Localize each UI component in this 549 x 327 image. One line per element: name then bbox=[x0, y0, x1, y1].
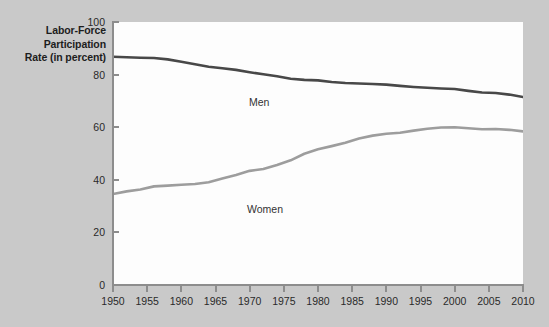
y-axis-title: Labor-Force Participation Rate (in perce… bbox=[4, 24, 106, 65]
y-axis-title-line-3: Rate (in percent) bbox=[4, 51, 106, 65]
series-line-men bbox=[113, 57, 523, 97]
y-tick-label: 100 bbox=[65, 16, 105, 28]
y-tick-label: 60 bbox=[65, 121, 105, 133]
x-tick-label: 2010 bbox=[498, 295, 548, 307]
y-tick-label: 0 bbox=[65, 279, 105, 291]
chart-figure: Labor-Force Participation Rate (in perce… bbox=[0, 0, 549, 327]
y-tick-mark bbox=[112, 179, 119, 181]
y-tick-label: 40 bbox=[65, 174, 105, 186]
x-tick-mark bbox=[522, 285, 524, 292]
x-tick-mark bbox=[351, 285, 353, 292]
series-label-women: Women bbox=[247, 203, 283, 215]
x-tick-mark bbox=[317, 285, 319, 292]
y-axis-title-line-2: Participation bbox=[4, 38, 106, 52]
x-tick-mark bbox=[283, 285, 285, 292]
x-tick-mark bbox=[112, 285, 114, 292]
y-tick-label: 80 bbox=[65, 69, 105, 81]
series-line-women bbox=[113, 127, 523, 194]
y-tick-mark bbox=[112, 21, 119, 23]
x-tick-mark bbox=[420, 285, 422, 292]
series-label-men: Men bbox=[249, 96, 269, 108]
y-tick-label: 20 bbox=[65, 226, 105, 238]
y-tick-mark bbox=[112, 231, 119, 233]
y-tick-mark bbox=[112, 126, 119, 128]
x-tick-mark bbox=[146, 285, 148, 292]
x-tick-mark bbox=[454, 285, 456, 292]
x-tick-mark bbox=[385, 285, 387, 292]
y-tick-mark bbox=[112, 74, 119, 76]
plot-area bbox=[113, 22, 523, 285]
x-tick-mark bbox=[215, 285, 217, 292]
x-tick-mark bbox=[249, 285, 251, 292]
x-tick-mark bbox=[488, 285, 490, 292]
x-tick-mark bbox=[180, 285, 182, 292]
series-lines bbox=[113, 22, 523, 285]
y-axis-line bbox=[112, 22, 114, 286]
